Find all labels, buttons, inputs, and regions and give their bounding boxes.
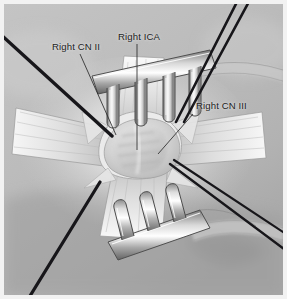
surgical-illustration-artwork [4, 4, 283, 295]
label-right-ica: Right ICA [118, 31, 160, 42]
illustration-figure: Right CN II Right ICA Right CN III [0, 0, 287, 299]
label-right-cn-ii: Right CN II [52, 41, 100, 52]
label-right-cn-iii: Right CN III [196, 100, 247, 111]
illustration-plate: Right CN II Right ICA Right CN III [4, 4, 283, 295]
